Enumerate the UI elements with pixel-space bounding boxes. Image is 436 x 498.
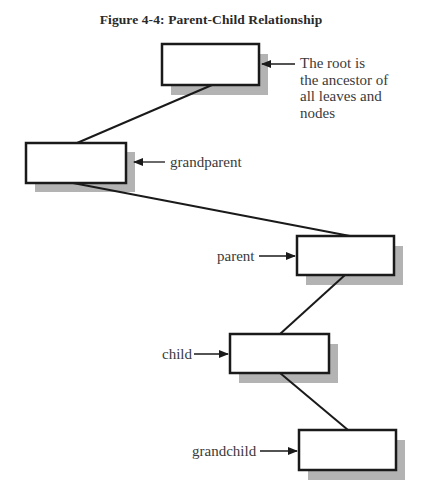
root-annotation-line: The root is (300, 55, 430, 72)
node-grandchild (299, 430, 396, 470)
edge-grandparent-parent (73, 183, 350, 236)
label-grandparent: grandparent (170, 154, 242, 170)
node-child (230, 334, 329, 373)
label-arrows (134, 64, 297, 451)
root-annotation-line: nodes (300, 105, 430, 122)
root-annotation-line: the ancestor of (300, 72, 430, 89)
label-grandchild: grandchild (192, 443, 256, 459)
edge-root-grandparent (77, 85, 212, 143)
node-parent (297, 236, 394, 275)
root-annotation: The root is the ancestor of all leaves a… (300, 55, 430, 121)
root-annotation-line: all leaves and (300, 88, 430, 105)
label-child: child (162, 346, 192, 362)
node-grandparent (26, 143, 126, 183)
label-parent: parent (217, 248, 254, 264)
node-root (162, 44, 259, 85)
